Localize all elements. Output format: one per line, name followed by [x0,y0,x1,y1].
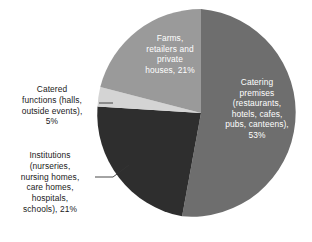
pie-label-catered-functions: Catered functions (halls, outside events… [3,84,101,127]
pie-chart-figure: Farms, retailers and private houses, 21%… [0,0,312,242]
pie-label-institutions: Institutions (nurseries, nursing homes, … [1,150,99,215]
